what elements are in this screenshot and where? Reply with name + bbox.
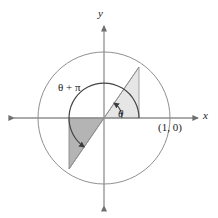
point-label-one-zero: (1, 0) [158,122,182,133]
unit-circle-figure: y x θ + π θ (1, 0) [0,0,218,218]
x-axis-label: x [203,110,208,121]
angle-label-theta: θ [118,108,123,119]
y-axis-label: y [98,8,103,19]
angle-label-theta-plus-pi: θ + π [58,82,81,93]
figure-canvas [0,0,218,218]
